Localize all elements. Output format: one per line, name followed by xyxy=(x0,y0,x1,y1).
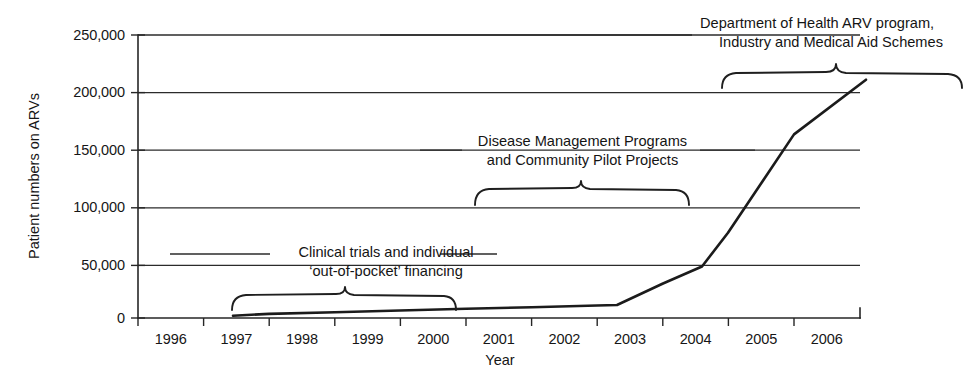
y-tick-label-200000: 200,000 xyxy=(30,84,125,100)
annotation-clinical-trials-line2: ‘out-of-pocket’ financing xyxy=(309,263,463,279)
x-tick-label-2005: 2005 xyxy=(728,331,794,347)
x-tick-label-1996: 1996 xyxy=(138,331,204,347)
axes-lines xyxy=(138,35,860,318)
annotation-disease-management-line1: Disease Management Programs xyxy=(478,133,687,149)
y-tick-label-50000: 50,000 xyxy=(30,257,125,273)
x-tick-label-2003: 2003 xyxy=(597,331,663,347)
y-tick-label-100000: 100,000 xyxy=(30,199,125,215)
x-tick-label-1998: 1998 xyxy=(269,331,335,347)
annotation-clinical-trials-line1: Clinical trials and individual xyxy=(298,244,473,260)
x-tick-label-1999: 1999 xyxy=(335,331,401,347)
brace-clinical-trials xyxy=(232,287,456,310)
brace-doh-arv xyxy=(722,64,962,88)
x-tick-label-2004: 2004 xyxy=(663,331,729,347)
x-tick-label-2000: 2000 xyxy=(400,331,466,347)
brace-disease-management xyxy=(475,181,689,205)
annotation-clinical-trials: Clinical trials and individual ‘out-of-p… xyxy=(276,243,496,281)
annotation-disease-management-line2: and Community Pilot Projects xyxy=(487,152,678,168)
x-tick-marks xyxy=(138,318,794,326)
y-tick-label-250000: 250,000 xyxy=(30,27,125,43)
chart-figure: 250,000 200,000 150,000 100,000 50,000 0… xyxy=(0,0,971,388)
y-tick-label-150000: 150,000 xyxy=(30,142,125,158)
x-tick-label-2002: 2002 xyxy=(532,331,598,347)
chart-canvas xyxy=(0,0,971,388)
annotation-doh-arv-line2: Industry and Medical Aid Schemes xyxy=(700,33,962,52)
y-axis-title: Patient numbers on ARVs xyxy=(26,76,42,276)
x-tick-label-2001: 2001 xyxy=(466,331,532,347)
y-tick-label-0: 0 xyxy=(30,310,125,326)
x-axis-title: Year xyxy=(440,352,560,368)
x-tick-label-2006: 2006 xyxy=(794,331,860,347)
annotation-doh-arv-line1: Department of Health ARV program, xyxy=(700,15,934,31)
x-tick-label-1997: 1997 xyxy=(204,331,270,347)
annotation-disease-management: Disease Management Programs and Communit… xyxy=(455,132,710,170)
annotation-doh-arv-program: Department of Health ARV program, Indust… xyxy=(700,14,971,52)
